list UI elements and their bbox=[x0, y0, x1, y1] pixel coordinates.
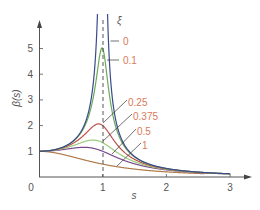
series-labels: 00.10.250.3750.51 bbox=[103, 36, 158, 166]
leader-line bbox=[103, 114, 132, 141]
y-tick-label: 1 bbox=[27, 146, 33, 157]
series-label-0: 0 bbox=[123, 36, 129, 47]
x-tick-label: 1 bbox=[100, 182, 106, 193]
y-axis-label: β(s) bbox=[11, 89, 22, 107]
y-axis-arrow-icon bbox=[37, 20, 42, 28]
leader-line bbox=[112, 129, 136, 154]
y-tick-label: 4 bbox=[27, 69, 33, 80]
x-tick-label: 3 bbox=[227, 182, 233, 193]
curves-group bbox=[39, 0, 230, 174]
line-chart: 012312345 s β(s) ξ 00.10.250.3750.51 bbox=[0, 0, 260, 210]
series-label-0.5: 0.5 bbox=[137, 126, 151, 137]
series-label-0.1: 0.1 bbox=[123, 55, 137, 66]
x-axis-arrow-icon bbox=[244, 175, 252, 180]
y-tick-label: 2 bbox=[27, 120, 33, 131]
series-label-0.375: 0.375 bbox=[133, 111, 158, 122]
x-axis-label: s bbox=[132, 190, 137, 201]
chart-area: 012312345 s β(s) ξ 00.10.250.3750.51 bbox=[0, 0, 260, 210]
curve-zeta-0 bbox=[103, 0, 230, 174]
x-tick-label: 2 bbox=[164, 182, 170, 193]
y-tick-label: 3 bbox=[27, 94, 33, 105]
legend-title: ξ bbox=[117, 15, 122, 27]
x-tick-label: 0 bbox=[28, 182, 34, 193]
leader-line bbox=[103, 100, 127, 123]
y-tick-label: 5 bbox=[27, 43, 33, 54]
series-label-0.25: 0.25 bbox=[128, 97, 148, 108]
series-label-1: 1 bbox=[142, 140, 148, 151]
curve-zeta-0 bbox=[39, 0, 102, 151]
